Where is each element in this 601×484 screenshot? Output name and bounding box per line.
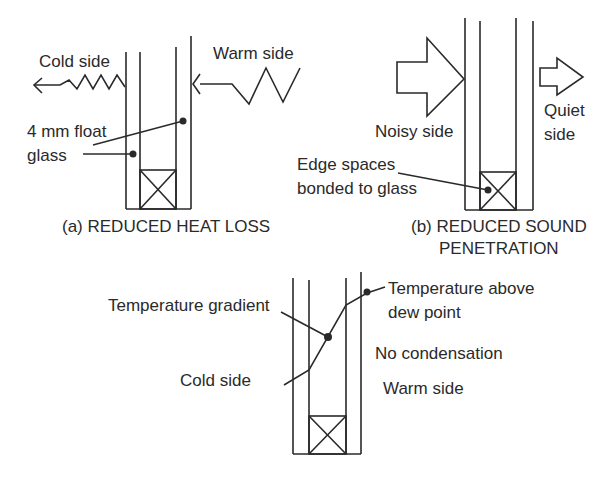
quiet-side-label-line1: Quiet — [544, 101, 585, 120]
arrow-left-icon — [193, 74, 200, 94]
caption-b-line1: (b) REDUCED SOUND — [411, 217, 587, 236]
no-condensation-label: No condensation — [375, 344, 503, 363]
temperature-gradient-line — [284, 287, 385, 385]
glass-label-line1: 4 mm float — [27, 122, 107, 141]
noisy-side-label: Noisy side — [375, 122, 453, 141]
dew-point-label-line1: Temperature above — [388, 279, 534, 298]
edge-spaces-label-line2: bonded to glass — [297, 179, 417, 198]
diagram-a-heat-loss: Cold side Warm side 4 mm float glass (a)… — [27, 36, 300, 236]
caption-a: (a) REDUCED HEAT LOSS — [62, 217, 270, 236]
noisy-arrow-icon — [397, 38, 464, 116]
edge-spaces-label-line1: Edge spaces — [297, 155, 395, 174]
heat-flow-zigzag-cold — [34, 75, 125, 89]
edge-spacer — [309, 416, 346, 454]
diagram-c-condensation: Temperature gradient Temperature above d… — [108, 272, 534, 454]
heat-flow-zigzag-warm — [200, 68, 300, 104]
temperature-gradient-label: Temperature gradient — [108, 296, 270, 315]
warm-side-label: Warm side — [213, 44, 294, 63]
cold-side-label: Cold side — [39, 52, 110, 71]
dew-point-marker-dot — [364, 289, 371, 296]
glass-leader-line — [93, 121, 183, 145]
edge-spacer — [140, 170, 176, 209]
dew-point-label-line2: dew point — [388, 303, 461, 322]
double-glazing-diagram: Cold side Warm side 4 mm float glass (a)… — [0, 0, 601, 484]
diagram-b-sound: Noisy side Quiet side Edge spaces bonded… — [297, 18, 587, 258]
glass-label-line2: glass — [27, 146, 67, 165]
gradient-leader-line — [281, 312, 328, 337]
quiet-side-label-line2: side — [544, 125, 575, 144]
cold-side-label-c: Cold side — [180, 371, 251, 390]
caption-b-line2: PENETRATION — [439, 239, 559, 258]
warm-side-label-c: Warm side — [383, 379, 464, 398]
quiet-arrow-icon — [540, 58, 583, 95]
